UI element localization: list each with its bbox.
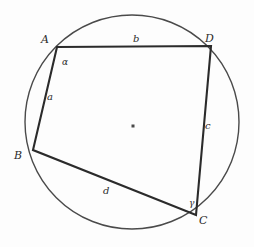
angle-label-gamma: γ [189,199,194,208]
figure-canvas [0,0,254,247]
side-label-b: b [133,34,139,44]
side-label-a: a [47,92,53,102]
side-label-c: c [205,121,211,131]
vertex-label-d: D [205,33,214,44]
circle-center-dot [132,125,135,128]
side-label-d: d [103,186,109,196]
cyclic-quadrilateral-abcd [33,46,211,215]
vertex-label-a: A [41,34,49,45]
vertex-label-c: C [199,215,208,226]
vertex-label-b: B [14,150,22,161]
geometry-figure: A D B C b a c d α γ [0,0,254,247]
angle-label-alpha: α [62,58,68,67]
